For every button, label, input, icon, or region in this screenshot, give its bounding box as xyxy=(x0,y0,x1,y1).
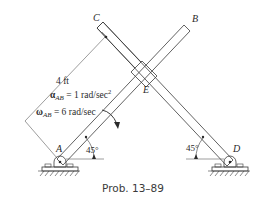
rod-cd-overlay xyxy=(97,22,141,68)
label-c: C xyxy=(93,12,100,23)
label-e: E xyxy=(142,84,149,95)
omega-symbol: ω xyxy=(36,107,43,117)
mechanism-diagram: C B E A D 4 ft αAB = 1 rad/sec2 ωAB = 6 … xyxy=(0,0,266,200)
rod-cd xyxy=(97,22,233,166)
angular-acceleration-label: αAB = 1 rad/sec2 xyxy=(50,88,111,102)
label-a: A xyxy=(55,143,63,154)
angle-label-a: 45° xyxy=(86,145,99,155)
label-d: D xyxy=(232,143,241,154)
rotation-arrow-icon xyxy=(102,110,120,129)
figure-caption: Prob. 13–89 xyxy=(102,182,164,194)
length-label: 4 ft xyxy=(56,76,69,86)
alpha-value: = 1 rad/sec xyxy=(64,90,108,100)
alpha-exponent: 2 xyxy=(108,88,111,95)
label-b: B xyxy=(192,13,198,24)
angular-velocity-label: ωAB = 6 rad/sec xyxy=(36,107,96,119)
omega-value: = 6 rad/sec xyxy=(52,107,96,117)
angle-label-d: 45° xyxy=(186,143,199,153)
